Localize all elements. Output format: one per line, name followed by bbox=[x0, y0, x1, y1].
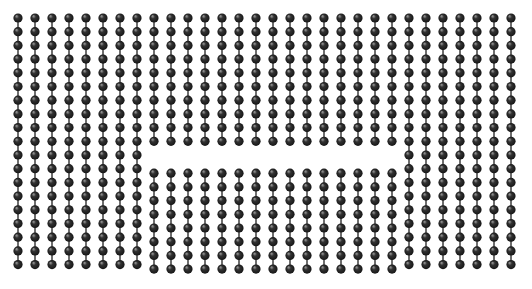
lattice-figure: Particle lattice with horizontal stackin… bbox=[0, 0, 532, 289]
particle-lattice-canvas bbox=[0, 0, 532, 289]
